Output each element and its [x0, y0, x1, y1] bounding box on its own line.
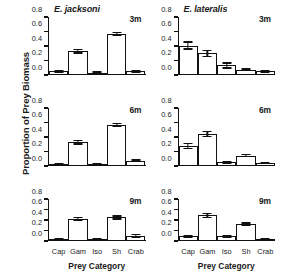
- bar-group-iso: [88, 108, 107, 165]
- y-axis-tick-label: 0.4: [161, 126, 171, 133]
- error-bar-cap-lower: [184, 48, 193, 49]
- error-bar-cap-upper: [203, 131, 212, 132]
- plot-area: 0.00.20.40.60.8: [48, 108, 146, 166]
- y-axis-tick-label: 0.6: [161, 198, 171, 205]
- error-bar-cap-upper: [73, 217, 82, 218]
- bar-group-cap: [49, 17, 68, 74]
- plot-area: 0.00.20.40.60.8: [178, 17, 276, 75]
- error-bar-cap-lower: [261, 239, 270, 240]
- y-axis-tick-label: 0.6: [32, 20, 42, 27]
- error-bar-cap-lower: [222, 236, 231, 237]
- y-axis-tick-label: 0.6: [32, 111, 42, 118]
- bar-group-cap: [49, 199, 68, 240]
- error-bar-cap-upper: [112, 32, 121, 33]
- y-axis-tick-label: 0.8: [161, 97, 171, 104]
- y-axis-tick-label: 0.0: [32, 64, 42, 71]
- y-axis-tick: [44, 136, 48, 137]
- y-axis-tick: [174, 230, 178, 231]
- y-axis-tick: [174, 240, 178, 241]
- error-bar-cap-lower: [131, 71, 140, 72]
- x-axis-tick-label: Gam: [198, 246, 217, 257]
- bar-group-gam: [68, 17, 87, 74]
- bar-group-gam: [198, 17, 217, 74]
- bar: [107, 125, 126, 165]
- error-bar-cap-lower: [242, 225, 251, 226]
- error-bar-cap-upper: [112, 215, 121, 216]
- bar-group-sh: [236, 199, 255, 240]
- y-axis-tick-label: 0.6: [32, 198, 42, 205]
- y-axis-tick-label: 0.2: [32, 49, 42, 56]
- panel-e-lateralis-3m: E. lateralis3m0.00.20.40.60.8: [152, 4, 282, 95]
- error-bar-cap-lower: [93, 73, 102, 74]
- y-axis-tick: [44, 31, 48, 32]
- bar: [68, 51, 87, 74]
- y-axis-tick-label: 0.4: [161, 35, 171, 42]
- panel-e-jacksoni-6m: 6m0.00.20.40.60.8: [22, 95, 152, 186]
- y-axis-tick-label: 0.2: [161, 140, 171, 147]
- plot-area: 0.00.20.40.60.8: [178, 199, 276, 241]
- y-axis-tick: [174, 16, 178, 17]
- bar-group-iso: [88, 17, 107, 74]
- bar-group-gam: [198, 199, 217, 240]
- bar: [198, 134, 217, 165]
- y-axis-tick: [174, 31, 178, 32]
- error-bar-cap-lower: [261, 163, 270, 164]
- y-axis-tick-label: 0.2: [161, 219, 171, 226]
- error-bar-cap-upper: [184, 41, 193, 42]
- y-axis-tick: [174, 209, 178, 210]
- bar-group-gam: [198, 108, 217, 165]
- y-axis-tick: [174, 136, 178, 137]
- x-axis-tick-label: Cap: [49, 246, 68, 257]
- error-bar-cap-lower: [73, 220, 82, 221]
- error-bar-cap-lower: [131, 161, 140, 162]
- error-bar-cap-lower: [184, 236, 193, 237]
- error-bar-cap-lower: [242, 70, 251, 71]
- error-bar-cap-upper: [184, 143, 193, 144]
- bar-group-crab: [126, 199, 145, 240]
- y-axis-tick: [44, 122, 48, 123]
- y-axis-tick-label: 0.6: [161, 111, 171, 118]
- error-bar-cap-lower: [242, 156, 251, 157]
- y-axis-tick-label: 0.8: [32, 97, 42, 104]
- x-axis-tick-label: Iso: [217, 246, 236, 257]
- x-axis-tick-labels: CapGamIsoShCrab: [49, 246, 146, 257]
- bar: [68, 219, 87, 240]
- error-bar-cap-lower: [222, 162, 231, 163]
- error-bar-cap-lower: [73, 52, 82, 53]
- panel-e-lateralis-9m: 9m0.00.20.40.60.8CapGamIsoShCrabPrey Cat…: [152, 186, 282, 277]
- error-bar-cap-lower: [54, 71, 63, 72]
- bar-group-gam: [68, 108, 87, 165]
- plot-area: 0.00.20.40.60.8: [48, 199, 146, 241]
- panel-e-lateralis-6m: 6m0.00.20.40.60.8: [152, 95, 282, 186]
- y-axis-tick: [174, 165, 178, 166]
- error-bar-cap-lower: [93, 239, 102, 240]
- y-axis-tick-label: 0.8: [161, 6, 171, 13]
- error-bar-cap-upper: [131, 234, 140, 235]
- error-bar-cap-upper: [112, 123, 121, 124]
- y-axis-tick-label: 0.8: [32, 188, 42, 195]
- figure-panel-grid: Proportion of Prey Biomass E. jacksoni3m…: [0, 0, 281, 277]
- bar: [179, 46, 198, 75]
- y-axis-tick-label: 0.4: [161, 209, 171, 216]
- panel-e-jacksoni-3m: E. jacksoni3m0.00.20.40.60.8: [22, 4, 152, 95]
- y-axis-tick-label: 0.8: [32, 6, 42, 13]
- y-axis-tick-label: 0.2: [161, 49, 171, 56]
- x-axis-tick-label: Sh: [236, 246, 255, 257]
- bar: [236, 224, 255, 240]
- error-bar-cap-upper: [203, 50, 212, 51]
- y-axis-tick: [44, 198, 48, 199]
- bar-series: [49, 17, 146, 74]
- bar-series: [179, 199, 276, 240]
- error-bar-cap-lower: [93, 164, 102, 165]
- y-axis-tick: [44, 209, 48, 210]
- bar: [107, 34, 126, 74]
- y-axis-tick: [174, 219, 178, 220]
- error-bar-cap-lower: [73, 143, 82, 144]
- bar-group-cap: [179, 17, 198, 74]
- plot-area: 0.00.20.40.60.8: [48, 17, 146, 75]
- bar-group-cap: [179, 199, 198, 240]
- y-axis-tick: [44, 230, 48, 231]
- y-axis-tick: [44, 45, 48, 46]
- panel-species-title: E. lateralis: [184, 4, 228, 14]
- y-axis-tick: [174, 151, 178, 152]
